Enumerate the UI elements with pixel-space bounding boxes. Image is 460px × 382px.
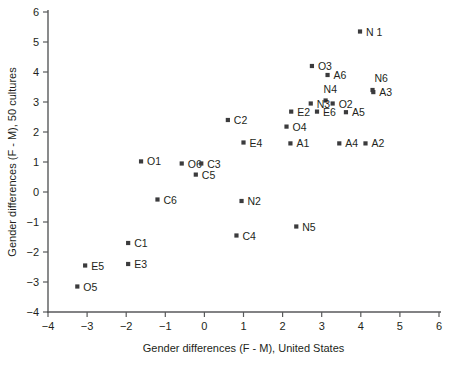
data-point-label: C6 (163, 194, 177, 206)
x-tick-label: 4 (358, 320, 364, 332)
data-point-label: E3 (134, 258, 147, 270)
data-point: E5 (83, 260, 104, 272)
data-point-marker (75, 284, 79, 288)
data-point: C4 (234, 230, 256, 242)
x-tick-label: −1 (159, 320, 172, 332)
data-point: N5 (294, 221, 316, 233)
data-point: C5 (194, 169, 216, 181)
x-tick-label: −3 (81, 320, 94, 332)
data-point-label: N6 (375, 72, 389, 84)
y-tick-label: 1 (33, 156, 39, 168)
data-point-marker (241, 140, 245, 144)
data-point-marker (363, 141, 367, 145)
data-point: O4 (284, 121, 306, 133)
data-point-marker (139, 159, 143, 163)
data-point-marker (289, 110, 293, 114)
data-point-marker (325, 73, 329, 77)
data-point-label: N 1 (366, 26, 383, 38)
x-tick-label: 0 (201, 320, 207, 332)
data-point-label: C1 (134, 237, 148, 249)
data-point-marker (126, 241, 130, 245)
data-point-label: E6 (323, 106, 336, 118)
data-point-marker (315, 110, 319, 114)
data-point-label: E2 (297, 106, 310, 118)
data-point-marker (310, 64, 314, 68)
data-point-marker (371, 90, 375, 94)
data-point: O5 (75, 281, 97, 293)
y-tick-label: −4 (26, 306, 39, 318)
data-point-label: A1 (296, 137, 309, 149)
data-point-marker (194, 173, 198, 177)
data-point-marker (239, 199, 243, 203)
x-tick-label: 3 (319, 320, 325, 332)
y-tick-label: −1 (26, 216, 39, 228)
data-point: E3 (126, 258, 147, 270)
data-point-marker (358, 29, 362, 33)
data-point-label: N4 (324, 83, 338, 95)
data-point: E2 (289, 106, 310, 118)
data-point-label: O3 (318, 60, 332, 72)
data-point-label: A5 (352, 106, 365, 118)
data-point-marker (337, 141, 341, 145)
scatter-plot-figure: −4−3−2−10123456−4−3−2−10123456Gender dif… (0, 0, 460, 382)
data-point: C2 (226, 114, 248, 126)
x-tick-label: 1 (240, 320, 246, 332)
x-axis-title: Gender differences (F - M), United State… (143, 342, 345, 354)
data-point: A4 (337, 137, 358, 149)
data-point-marker (83, 263, 87, 267)
y-tick-label: 4 (33, 66, 39, 78)
data-point: A1 (288, 137, 309, 149)
data-point: E4 (241, 137, 262, 149)
data-point-label: O5 (83, 281, 97, 293)
y-tick-label: 5 (33, 36, 39, 48)
y-tick-label: 6 (33, 6, 39, 18)
data-point-label: A3 (379, 86, 392, 98)
data-point: C6 (155, 194, 177, 206)
plot-canvas: −4−3−2−10123456−4−3−2−10123456Gender dif… (0, 0, 460, 382)
data-point-label: O2 (339, 98, 353, 110)
data-point-marker (294, 224, 298, 228)
x-tick-label: 2 (280, 320, 286, 332)
y-axis-title: Gender differences (F - M), 50 cultures (6, 67, 18, 257)
data-point-marker (234, 233, 238, 237)
x-tick-label: −4 (42, 320, 55, 332)
data-point-label: C4 (242, 230, 256, 242)
x-tick-label: 6 (436, 320, 442, 332)
data-point-label: C2 (234, 114, 248, 126)
data-point-marker (199, 161, 203, 165)
data-point-marker (284, 125, 288, 129)
data-point-label: A4 (345, 137, 358, 149)
data-point: C1 (126, 237, 148, 249)
y-tick-label: −3 (26, 276, 39, 288)
data-point: O6 (180, 158, 202, 170)
data-point-marker (288, 141, 292, 145)
data-point-label: O1 (147, 155, 161, 167)
data-point-label: O4 (293, 121, 307, 133)
y-tick-label: −2 (26, 246, 39, 258)
x-tick-label: 5 (397, 320, 403, 332)
data-point-label: A2 (371, 137, 384, 149)
data-point-marker (155, 197, 159, 201)
y-tick-label: 2 (33, 126, 39, 138)
data-point: O3 (310, 60, 332, 72)
data-point-label: N5 (302, 221, 316, 233)
data-point-marker (344, 110, 348, 114)
data-point-marker (226, 118, 230, 122)
data-point-label: E5 (91, 260, 104, 272)
data-point-label: N2 (248, 195, 262, 207)
y-tick-label: 3 (33, 96, 39, 108)
data-point: O1 (139, 155, 161, 167)
data-point: A2 (363, 137, 384, 149)
data-point: N 1 (358, 26, 383, 38)
data-point-marker (180, 161, 184, 165)
data-point-marker (126, 262, 130, 266)
data-point-label: A6 (334, 69, 347, 81)
data-point: N2 (239, 195, 261, 207)
data-point-label: E4 (250, 137, 263, 149)
data-point-label: C5 (202, 169, 216, 181)
y-tick-label: 0 (33, 186, 39, 198)
x-tick-label: −2 (120, 320, 133, 332)
